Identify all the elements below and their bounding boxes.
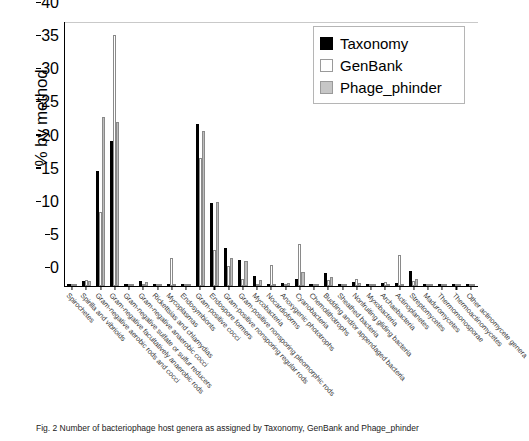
- bar-phinder: [88, 281, 91, 286]
- y-tick-mark: [36, 134, 41, 135]
- bar-phinder: [287, 283, 290, 286]
- x-label-cell: Gram-negative facultatively anaerobic ro…: [107, 290, 121, 410]
- bar-group: [236, 22, 250, 286]
- bar-phinder: [430, 284, 433, 286]
- x-label-cell: Gram-positive cocci: [193, 290, 207, 410]
- bar-phinder: [472, 284, 475, 286]
- y-tick-mark: [45, 234, 50, 235]
- y-tick-label: 30: [41, 60, 65, 78]
- y-tick-mark: [36, 2, 41, 3]
- bar-phinder: [444, 284, 447, 286]
- y-tick-mark: [36, 68, 41, 69]
- bar-group: [464, 22, 478, 286]
- bar-phinder: [230, 258, 233, 286]
- bar-group: [108, 22, 122, 286]
- x-label-cell: Spirilla and vibrioids: [78, 290, 92, 410]
- bar-group: [293, 22, 307, 286]
- bar-phinder: [145, 282, 148, 286]
- y-tick-label: 20: [41, 127, 65, 145]
- bar-group: [165, 22, 179, 286]
- x-label-cell: Budding and/or appendaged bacteria: [321, 290, 335, 410]
- y-tick-mark: [45, 267, 50, 268]
- legend-item-taxonomy: Taxonomy: [320, 32, 458, 54]
- bar-phinder: [373, 284, 376, 286]
- bar-phinder: [458, 284, 461, 286]
- black-square-swatch-icon: [320, 37, 333, 50]
- bar-phinder: [358, 283, 361, 286]
- y-tick-mark: [36, 35, 41, 36]
- bar-phinder: [159, 284, 162, 286]
- bar-group: [250, 22, 264, 286]
- bar-phinder: [244, 261, 247, 286]
- x-label-cell: Gram-negative aerobic rods and cocci: [93, 290, 107, 410]
- bar-genbank: [270, 265, 273, 286]
- bar-phinder: [330, 277, 333, 286]
- y-tick-label: 5: [50, 226, 65, 244]
- x-label-cell: Nonfruiting gliding bacteria: [350, 290, 364, 410]
- x-label-cell: Mycobacteria: [250, 290, 264, 410]
- bar-phinder: [188, 284, 191, 286]
- legend-label-genbank: GenBank: [340, 57, 403, 74]
- y-tick-label: 25: [41, 93, 65, 111]
- chart-legend: Taxonomy GenBank Phage_phinder: [313, 26, 465, 104]
- bar-phinder: [316, 284, 319, 286]
- x-label-cell: Thermoactinomycetes: [450, 290, 464, 410]
- bar-phinder: [102, 117, 105, 286]
- y-tick-label: 40: [41, 0, 65, 12]
- x-label-cell: Nocardioforms: [264, 290, 278, 410]
- legend-item-phage-phinder: Phage_phinder: [320, 76, 458, 98]
- x-label-cell: Actinoplanetes: [392, 290, 406, 410]
- bar-group: [207, 22, 221, 286]
- bar-phinder: [116, 122, 119, 286]
- bar-phinder: [415, 279, 418, 286]
- bar-group: [65, 22, 79, 286]
- bar-phinder: [202, 131, 205, 286]
- x-label-cell: Other actinomycete genera: [464, 290, 478, 410]
- bar-group: [93, 22, 107, 286]
- gray-square-swatch-icon: [320, 81, 333, 94]
- bar-group: [279, 22, 293, 286]
- x-label-cell: Rickettsias and chlamydias: [150, 290, 164, 410]
- x-label-cell: Maduromycetes: [421, 290, 435, 410]
- figure-caption: Fig. 2 Number of bacteriophage host gene…: [36, 423, 506, 433]
- bar-genbank: [170, 258, 173, 286]
- x-label-cell: Chemolithotrophs: [307, 290, 321, 410]
- x-label-cell: Gram-positive nonsporing regular rods: [221, 290, 235, 410]
- bar-phinder: [216, 202, 219, 286]
- y-tick-label: 35: [41, 27, 65, 45]
- x-label-cell: Gram-negative sulfate or sulfur reducers: [121, 290, 135, 410]
- x-label-cell: Thermomonosporae: [435, 290, 449, 410]
- bar-phinder: [387, 284, 390, 286]
- bar-phinder: [173, 284, 176, 286]
- x-label-cell: Spirochetes: [64, 290, 78, 410]
- x-axis-labels: SpirochetesSpirilla and vibrioidsGram-ne…: [64, 290, 478, 410]
- bar-group: [193, 22, 207, 286]
- y-axis-title: % by method: [32, 28, 52, 208]
- bar-phinder: [131, 284, 134, 286]
- x-label-cell: Cyanobacteria: [293, 290, 307, 410]
- bar-phinder: [259, 280, 262, 286]
- bar-group: [222, 22, 236, 286]
- bar-phinder: [401, 284, 404, 286]
- bar-phinder: [273, 284, 276, 286]
- x-label-cell: Mycoplasmas: [164, 290, 178, 410]
- y-tick-label: 10: [41, 193, 65, 211]
- bar-group: [150, 22, 164, 286]
- y-tick-mark: [36, 167, 41, 168]
- x-label-cell: Gram-positive nonsporing pleomorphic rod…: [235, 290, 249, 410]
- bar-genbank: [398, 255, 401, 286]
- x-axis-tick-label: Other actinomycete genera: [464, 291, 529, 360]
- x-label-cell: Anoxygenic phototrophs: [278, 290, 292, 410]
- x-label-cell: Endospore formers: [207, 290, 221, 410]
- bar-group: [79, 22, 93, 286]
- bar-phinder: [344, 284, 347, 286]
- x-label-cell: Endosymbionts: [178, 290, 192, 410]
- bar-phinder: [301, 272, 304, 286]
- y-tick-label: 15: [41, 160, 65, 178]
- legend-label-taxonomy: Taxonomy: [340, 35, 408, 52]
- bar-group: [179, 22, 193, 286]
- x-label-cell: Streptomycetes: [407, 290, 421, 410]
- x-label-cell: Archaebacteria: [378, 290, 392, 410]
- x-label-cell: Myxobacteria: [364, 290, 378, 410]
